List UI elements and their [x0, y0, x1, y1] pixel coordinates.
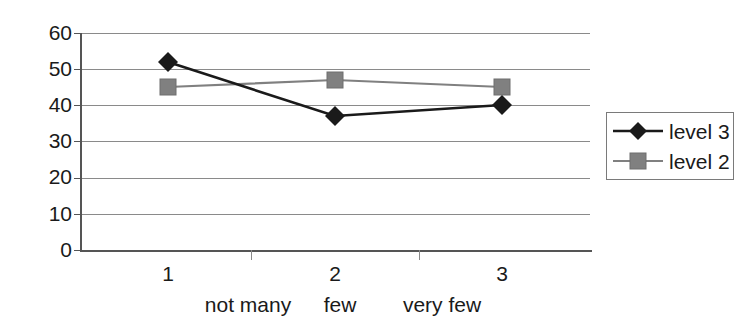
- x-sub-label-few: few: [310, 293, 370, 317]
- plot-area: [80, 33, 590, 250]
- y-axis-line: [80, 33, 82, 251]
- x-tick-label-2: 2: [300, 262, 370, 286]
- legend: level 3 level 2: [606, 112, 734, 180]
- y-tick-mark-50: [74, 69, 82, 70]
- gridline-10: [80, 214, 590, 215]
- x-tick-label-3: 3: [467, 262, 537, 286]
- x-tick-label-1: 1: [133, 262, 203, 286]
- legend-label-level-2: level 2: [669, 148, 730, 175]
- y-tick-label-40: 40: [26, 94, 72, 116]
- x-tick-mark-1: [251, 250, 252, 260]
- y-tick-label-0: 0: [26, 239, 72, 261]
- gridline-60: [80, 33, 590, 34]
- line-chart: % expected 60 50 40 30 20 10 0: [0, 0, 740, 332]
- legend-entry-level-2[interactable]: level 2: [607, 147, 735, 175]
- x-sub-label-very-few: very few: [382, 293, 502, 317]
- x-axis-line: [80, 250, 592, 252]
- y-tick-mark-40: [74, 105, 82, 106]
- legend-entry-level-3[interactable]: level 3: [607, 117, 735, 145]
- gridline-40: [80, 105, 590, 106]
- legend-key-level-2-square-icon: [611, 147, 665, 175]
- y-tick-label-10: 10: [26, 203, 72, 225]
- y-tick-mark-60: [74, 33, 82, 34]
- y-tick-mark-0: [74, 250, 82, 251]
- y-tick-mark-30: [74, 141, 82, 142]
- gridline-20: [80, 178, 590, 179]
- gridline-30: [80, 141, 590, 142]
- x-tick-mark-2: [419, 250, 420, 260]
- x-sub-label-not-many: not many: [188, 293, 308, 317]
- y-tick-label-30: 30: [26, 130, 72, 152]
- legend-label-level-3: level 3: [669, 118, 730, 145]
- y-tick-mark-10: [74, 214, 82, 215]
- y-tick-mark-20: [74, 178, 82, 179]
- y-tick-label-20: 20: [26, 166, 72, 188]
- y-tick-label-60: 60: [26, 22, 72, 44]
- gridline-50: [80, 69, 590, 70]
- legend-key-level-3-diamond-icon: [611, 117, 665, 145]
- y-tick-label-50: 50: [26, 58, 72, 80]
